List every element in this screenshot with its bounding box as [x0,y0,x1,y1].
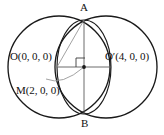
point-m-dot [82,65,86,69]
label-center-o: O(0, 0, 0) [10,51,52,62]
label-point-b: B [81,118,88,129]
label-center-o-prime: O′(4, 0, 0) [105,51,149,62]
label-midpoint-m: M(2, 0, 0) [16,85,60,96]
geometry-canvas [0,0,164,135]
geometry-figure: A B O(0, 0, 0) O′(4, 0, 0) M(2, 0, 0) [0,0,164,135]
arc-m-to-center [46,67,84,81]
label-point-a: A [80,2,88,13]
